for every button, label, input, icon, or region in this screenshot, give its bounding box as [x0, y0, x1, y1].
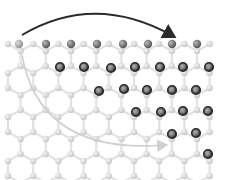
highlighted-atom — [156, 63, 165, 72]
top-atom — [144, 40, 152, 48]
arrows — [22, 14, 173, 146]
highlighted-atom — [95, 87, 104, 96]
highlighted-atom — [132, 108, 141, 117]
highlighted-atom — [157, 108, 166, 117]
highlighted-atom — [80, 63, 89, 72]
top-atom — [93, 40, 101, 48]
highlighted-atom — [179, 107, 188, 116]
highlighted-atom — [192, 129, 201, 138]
highlighted-atom — [168, 130, 177, 139]
highlighted-atom — [107, 64, 116, 73]
top-atom — [119, 40, 127, 48]
highlighted-atom — [204, 107, 213, 116]
highlighted-atom — [205, 63, 214, 72]
top-atom — [168, 40, 176, 48]
top-atom — [15, 40, 23, 48]
highlighted-atom — [179, 63, 188, 72]
top-atom — [193, 40, 201, 48]
highlighted-atom — [204, 150, 213, 159]
lattice-svg — [0, 0, 227, 180]
highlighted-atom — [120, 85, 129, 94]
highlighted-atom — [168, 86, 177, 95]
highlighted-atom — [56, 63, 65, 72]
highlighted-atom — [131, 63, 140, 72]
lattice-diagram — [0, 0, 227, 180]
top-atom — [67, 40, 75, 48]
top-arrow — [22, 14, 173, 36]
highlighted-atom — [192, 86, 201, 95]
highlighted-atom — [143, 86, 152, 95]
top-atom — [42, 40, 50, 48]
